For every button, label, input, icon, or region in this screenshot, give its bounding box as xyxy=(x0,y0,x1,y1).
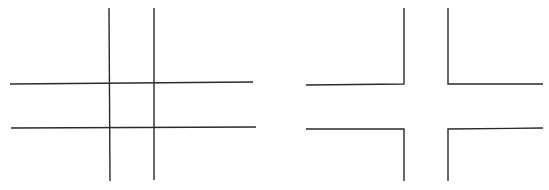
corner-bracket-2 xyxy=(448,8,543,84)
corner-bracket-3 xyxy=(306,129,404,181)
corner-bracket-1 xyxy=(306,8,404,85)
grid-line-3 xyxy=(10,82,253,84)
crossing-grid-figure xyxy=(10,8,256,181)
diagram-canvas xyxy=(0,0,549,190)
grid-line-4 xyxy=(11,127,256,128)
corner-bracket-4 xyxy=(448,128,543,181)
separated-corners-figure xyxy=(306,8,543,181)
grid-line-1 xyxy=(109,8,110,181)
